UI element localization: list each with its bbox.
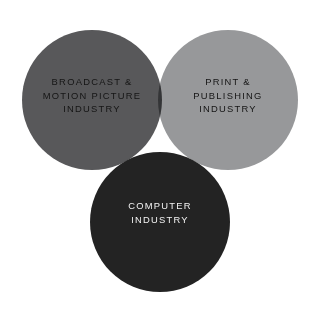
venn-circle-computer[interactable] [90,152,230,292]
venn-diagram: BROADCAST & MOTION PICTURE INDUSTRY PRIN… [0,0,321,315]
venn-circle-print[interactable] [158,30,298,170]
venn-circle-broadcast[interactable] [22,30,162,170]
